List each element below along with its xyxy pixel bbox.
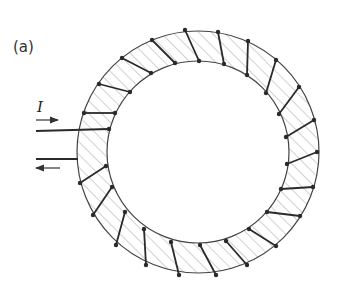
- winding-contact-dot: [128, 90, 132, 94]
- winding-contact-dot: [78, 181, 82, 185]
- winding-contact-dot: [246, 39, 250, 43]
- winding-contact-dot: [183, 28, 187, 32]
- winding-contact-dot: [279, 187, 283, 191]
- winding-contact-dot: [97, 82, 101, 86]
- winding-contact-dot: [169, 240, 173, 244]
- winding-contact-dot: [198, 243, 202, 247]
- winding-contact-dot: [214, 273, 218, 277]
- core-hatch: [0, 0, 338, 290]
- winding-contact-dot: [245, 73, 249, 77]
- winding-contact-dot: [247, 227, 251, 231]
- winding-contact-dot: [312, 118, 316, 122]
- winding-contact-dot: [142, 227, 146, 231]
- winding-contact-dot: [123, 210, 127, 214]
- winding-contact-dot: [285, 162, 289, 166]
- winding-contact-dot: [104, 164, 108, 168]
- winding-contact-dot: [277, 112, 281, 116]
- current-label: I: [36, 98, 44, 116]
- winding-contact-dot: [298, 214, 302, 218]
- winding-contact-dot: [284, 135, 288, 139]
- winding-contact-dot: [315, 150, 319, 154]
- winding-contact-dot: [197, 59, 201, 63]
- winding-contact-dot: [110, 185, 114, 189]
- winding-turn: [247, 41, 248, 75]
- winding-contact-dot: [149, 71, 153, 75]
- winding-contact-dot: [91, 213, 95, 217]
- winding-contact-dot: [216, 30, 220, 34]
- winding-contact-dot: [311, 185, 315, 189]
- winding-contact-dot: [114, 243, 118, 247]
- winding-contact-dot: [264, 91, 268, 95]
- winding-contact-dot: [173, 61, 177, 65]
- winding-contact-dot: [222, 62, 226, 66]
- winding-contact-dot: [150, 38, 154, 42]
- winding-contact-dot: [297, 85, 301, 89]
- winding-contact-dot: [274, 244, 278, 248]
- winding-contact-dot: [120, 56, 124, 60]
- winding-contact-dot: [113, 111, 117, 115]
- winding-contact-dot: [245, 263, 249, 267]
- winding-contact-dot: [274, 58, 278, 62]
- winding-contact-dot: [265, 210, 269, 214]
- winding-contact-dot: [177, 273, 181, 277]
- winding-contact-dot: [144, 263, 148, 267]
- winding-contact-dot: [224, 239, 228, 243]
- toroid-diagram: (a) I: [0, 0, 338, 290]
- toroid-core: [0, 0, 338, 290]
- winding-contact-dot: [82, 111, 86, 115]
